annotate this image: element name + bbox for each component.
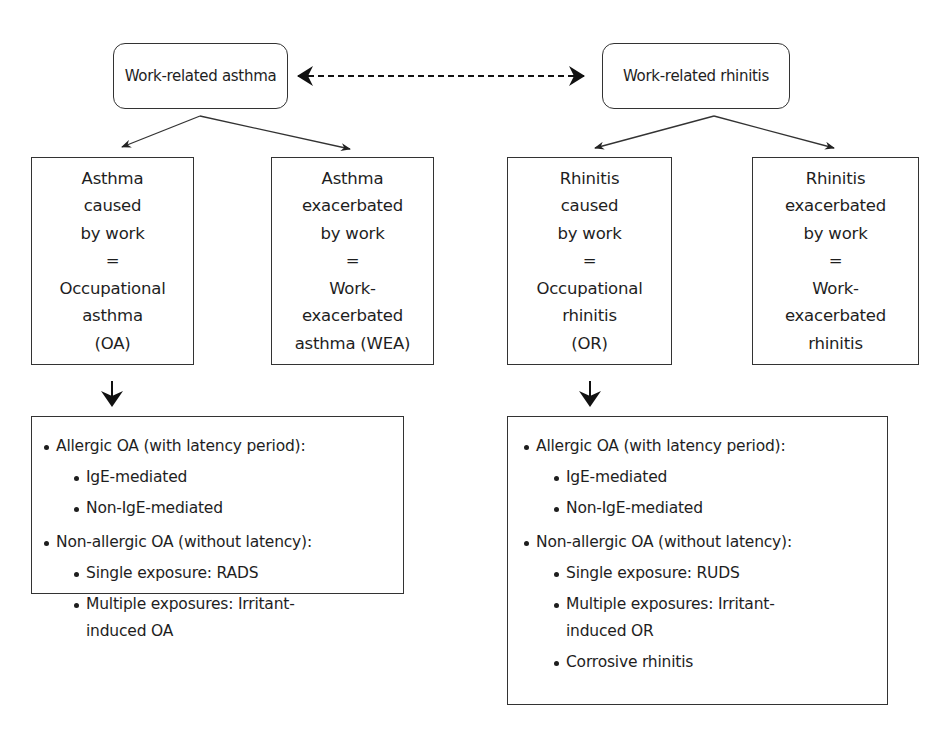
line: Asthma <box>82 165 144 193</box>
line: exacerbated <box>785 302 886 330</box>
list-item: IgE-mediated <box>72 462 403 493</box>
rhinitis-branch-arrows <box>595 116 834 148</box>
node-label: Work-related rhinitis <box>623 67 769 85</box>
line: by work <box>803 220 867 248</box>
list-item: Non-IgE-mediated <box>72 493 403 524</box>
asthma-branch-arrows <box>122 116 350 149</box>
line: = <box>583 247 597 275</box>
line: by work <box>320 220 384 248</box>
line: by work <box>557 220 621 248</box>
line: = <box>346 247 360 275</box>
list-item-continuation: induced OA <box>72 616 403 647</box>
line: Work- <box>812 275 859 303</box>
list-item: Allergic OA (with latency period): <box>522 431 887 462</box>
occupational-asthma-node: Asthma caused by work = Occupational ast… <box>31 157 194 365</box>
work-related-rhinitis-node: Work-related rhinitis <box>602 43 790 109</box>
line: (OA) <box>94 330 130 358</box>
list-item: IgE-mediated <box>552 462 887 493</box>
line: caused <box>84 192 142 220</box>
occupational-rhinitis-node: Rhinitis caused by work = Occupational r… <box>507 157 672 365</box>
or-subtypes-list: Allergic OA (with latency period): IgE-m… <box>507 416 888 705</box>
oa-subtypes-list: Allergic OA (with latency period): IgE-m… <box>31 416 404 594</box>
line: Occupational <box>536 275 642 303</box>
list-item: Non-allergic OA (without latency): <box>42 527 403 558</box>
work-exacerbated-rhinitis-node: Rhinitis exacerbated by work = Work- exa… <box>752 157 919 365</box>
line: = <box>829 247 843 275</box>
work-exacerbated-asthma-node: Asthma exacerbated by work = Work- exace… <box>271 157 434 365</box>
line: asthma (WEA) <box>295 330 411 358</box>
list-item: Single exposure: RUDS <box>552 558 887 589</box>
line: caused <box>561 192 619 220</box>
line: Occupational <box>59 275 165 303</box>
line: rhinitis <box>562 302 617 330</box>
line: exacerbated <box>302 192 403 220</box>
asthma-down-arrow <box>101 381 123 407</box>
line: exacerbated <box>302 302 403 330</box>
line: exacerbated <box>785 192 886 220</box>
list-item: Non-allergic OA (without latency): <box>522 527 887 558</box>
line: asthma <box>82 302 143 330</box>
rhinitis-down-arrow <box>579 381 601 407</box>
line: Rhinitis <box>560 165 620 193</box>
node-label: Work-related asthma <box>125 67 277 85</box>
work-related-asthma-node: Work-related asthma <box>113 43 288 109</box>
line: (OR) <box>571 330 608 358</box>
line: by work <box>80 220 144 248</box>
list-item: Allergic OA (with latency period): <box>42 431 403 462</box>
line: Rhinitis <box>806 165 866 193</box>
list-item: Non-IgE-mediated <box>552 493 887 524</box>
line: Asthma <box>322 165 384 193</box>
line: = <box>106 247 120 275</box>
line: Work- <box>329 275 376 303</box>
line: rhinitis <box>808 330 863 358</box>
list-item-continuation: induced OR <box>552 616 887 647</box>
list-item: Single exposure: RADS <box>72 558 403 589</box>
list-item: Corrosive rhinitis <box>552 647 887 678</box>
